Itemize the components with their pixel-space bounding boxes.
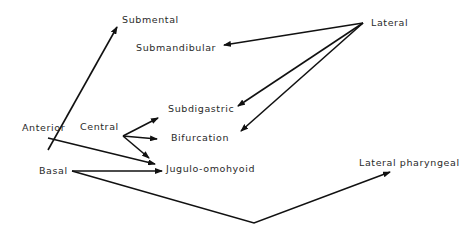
label-submandibular: Submandibular [136,42,216,53]
label-subdigastric: Subdigastric [168,103,234,114]
label-central: Central [80,121,119,132]
label-anterior: Anterior [22,122,65,133]
label-submental: Submental [122,14,179,25]
edge-anterior-jugulo [48,138,155,164]
label-basal: Basal [39,165,68,176]
diagram-arrows [0,0,472,234]
label-lateral-pharyngeal: Lateral pharyngeal [359,157,460,168]
edge-lateral-subdigastric [238,23,363,106]
label-jugulo-omohyoid: Jugulo-omohyoid [166,163,255,174]
edge-central-jugulo [123,136,149,158]
edge-basal-lateral-pharyngeal [72,171,390,223]
edge-central-subdigastric [123,118,158,136]
label-bifurcation: Bifurcation [171,132,229,143]
label-lateral: Lateral [371,17,408,28]
edge-central-bifurcation [123,136,157,139]
